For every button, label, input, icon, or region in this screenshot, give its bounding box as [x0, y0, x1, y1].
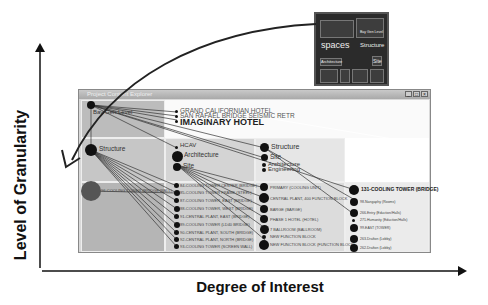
curve-arrowhead-icon	[62, 150, 80, 167]
curve-arrow	[72, 24, 316, 160]
curve-arrow-svg	[0, 0, 488, 305]
